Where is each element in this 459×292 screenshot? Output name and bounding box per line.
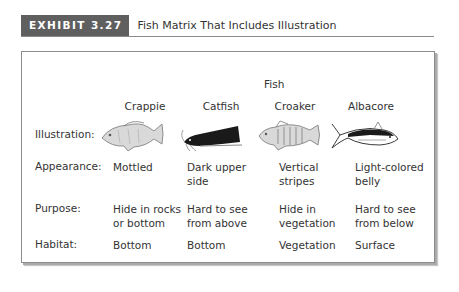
- appearance-albacore: Light-coloredbelly: [355, 160, 424, 188]
- exhibit-tag: EXHIBIT 3.27: [21, 15, 129, 36]
- column-header-albacore: Albacore: [326, 100, 416, 112]
- purpose-catfish: Hard to seefrom above: [187, 202, 248, 230]
- row-label-illustration: Illustration:: [35, 128, 95, 140]
- purpose-crappie: Hide in rocksor bottom: [113, 202, 181, 230]
- matrix-box: [21, 51, 435, 263]
- habitat-croaker: Vegetation: [279, 238, 336, 252]
- habitat-crappie: Bottom: [113, 238, 152, 252]
- crappie-illustration-icon: [98, 118, 168, 152]
- exhibit-title: Fish Matrix That Includes Illustration: [137, 19, 336, 32]
- group-header: Fish: [264, 78, 284, 90]
- appearance-croaker: Hide inVerticalstripes: [279, 160, 318, 188]
- exhibit-header: EXHIBIT 3.27 Fish Matrix That Includes I…: [21, 15, 337, 36]
- habitat-catfish: Bottom: [187, 238, 226, 252]
- title-divider: [21, 36, 434, 37]
- habitat-albacore: Surface: [355, 238, 395, 252]
- purpose-albacore: Hard to seefrom below: [355, 202, 416, 230]
- row-label-purpose: Purpose:: [35, 202, 81, 214]
- albacore-illustration-icon: [330, 118, 400, 152]
- row-label-appearance: Appearance:: [35, 160, 102, 172]
- catfish-illustration-icon: [178, 118, 248, 152]
- purpose-croaker: Hide invegetation: [279, 202, 335, 230]
- row-label-habitat: Habitat:: [35, 238, 77, 250]
- croaker-illustration-icon: [256, 118, 326, 152]
- appearance-catfish: Dark upperside: [187, 160, 246, 188]
- appearance-crappie: Mottled: [113, 160, 153, 174]
